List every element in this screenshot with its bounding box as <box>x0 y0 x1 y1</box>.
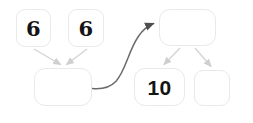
node-addend-left-label: 6 <box>26 18 41 39</box>
node-part-ten[interactable]: 10 <box>134 68 185 106</box>
node-addend-right-label: 6 <box>79 18 94 39</box>
number-bond-diagram: 6 6 10 <box>0 0 253 123</box>
connector-whole-to-part-empty <box>195 48 211 67</box>
node-addend-right[interactable]: 6 <box>68 9 104 47</box>
connector-addend-left-to-sum <box>34 49 61 65</box>
connector-addend-right-to-sum <box>67 49 88 65</box>
node-addend-left[interactable]: 6 <box>16 9 51 47</box>
connector-whole-to-part-ten <box>164 48 180 65</box>
node-sum-left-empty[interactable] <box>34 68 92 106</box>
node-part-empty[interactable] <box>194 70 230 106</box>
node-whole-right-empty[interactable] <box>159 9 216 46</box>
node-part-ten-label: 10 <box>148 77 172 98</box>
